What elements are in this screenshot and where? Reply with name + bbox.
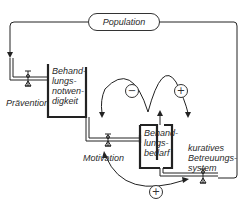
population-to-prevention-line <box>10 22 88 54</box>
demand-stock-label: Behand- lungs- bedarf <box>144 128 178 158</box>
care-system-label: kuratives Betreuungs- system <box>188 143 237 173</box>
need-stock-label: Behand- lungs- notwen- digkeit <box>52 66 86 106</box>
minus-loop-sign: − <box>125 84 139 98</box>
plus-loop-sign-top: + <box>174 84 188 98</box>
prevention-label: Prävention <box>6 98 49 108</box>
motivation-label: Motivation <box>83 153 124 163</box>
plus-loop-sign-bottom: + <box>149 185 163 199</box>
population-node: Population <box>88 13 160 31</box>
